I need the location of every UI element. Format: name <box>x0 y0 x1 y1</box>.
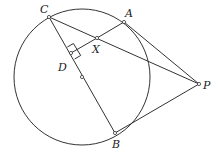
point-a <box>122 20 125 23</box>
label-p: P <box>202 79 211 92</box>
segment-ax <box>97 22 124 38</box>
circle-tangent-figure: C A X D P B <box>0 0 220 157</box>
point-o <box>80 75 83 78</box>
label-x: X <box>91 43 101 56</box>
segment-cp <box>49 17 199 84</box>
points <box>47 15 200 134</box>
segment-bp <box>115 84 199 133</box>
segment-ap <box>124 22 199 84</box>
point-p <box>197 82 200 85</box>
point-x <box>95 36 98 39</box>
segments <box>49 17 199 133</box>
label-b: B <box>111 138 120 151</box>
point-b <box>113 131 116 134</box>
label-a: A <box>124 7 133 20</box>
point-d <box>69 51 72 54</box>
label-c: C <box>40 3 49 16</box>
geometry-diagram: C A X D P B <box>0 0 220 157</box>
label-d: D <box>57 61 67 74</box>
